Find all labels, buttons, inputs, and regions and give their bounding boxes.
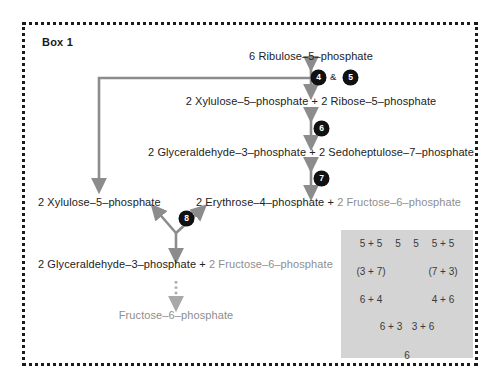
inset-top-label-4: 5 + 5 [432,238,455,249]
metabolite-xylulose-ribose-5-phosphate: 2 Xylulose–5–phosphate + 2 Ribose–5–phos… [186,95,437,107]
erythrose-4-phosphate-label: 2 Erythrose–4–phosphate + [196,196,337,208]
fructose-6-phosphate-label-gray-2: 2 Fructose–6–phosphate [209,258,333,270]
inset-final-label: 6 [404,350,410,361]
inset-third-label-right: 4 + 6 [432,294,455,305]
inset-second-label-left: (3 + 7) [356,266,385,277]
step-badge-4[interactable]: 4 [311,70,326,85]
step-conjunction: & [330,71,336,82]
inset-fourth-label-right: 3 + 6 [412,321,435,332]
metabolite-xylulose-5-phosphate: 2 Xylulose–5–phosphate [38,196,161,208]
inset-top-label-2: 5 [395,238,401,249]
step-badge-6[interactable]: 6 [314,121,329,136]
inset-fourth-label-left: 6 + 3 [380,321,403,332]
metabolite-erythrose-fructose-phosphate: 2 Erythrose–4–phosphate + 2 Fructose–6–p… [196,196,461,208]
glyceraldehyde-3-phosphate-label: 2 Glyceraldehyde–3–phosphate + [38,258,209,270]
step-badge-8[interactable]: 8 [179,211,194,226]
metabolite-fructose-6-phosphate: Fructose–6–phosphate [119,309,234,321]
inset-top-label-3: 5 [413,238,419,249]
step-badge-7[interactable]: 7 [314,171,329,186]
inset-second-label-right: (7 + 3) [428,266,457,277]
metabolite-gap-fructose-phosphate: 2 Glyceraldehyde–3–phosphate + 2 Fructos… [38,258,333,270]
metabolite-ribulose-5-phosphate: 6 Ribulose–5–phosphate [249,50,373,62]
inset-third-label-left: 6 + 4 [360,294,383,305]
inset-top-label-1: 5 + 5 [360,238,383,249]
step-badge-5[interactable]: 5 [343,70,358,85]
box-title: Box 1 [42,36,73,48]
fructose-6-phosphate-label-gray: 2 Fructose–6–phosphate [337,196,461,208]
metabolite-gap-sedoheptulose-phosphate: 2 Glyceraldehyde–3–phosphate + 2 Sedohep… [148,146,474,158]
diagram-canvas: Box 1 [0,0,499,386]
